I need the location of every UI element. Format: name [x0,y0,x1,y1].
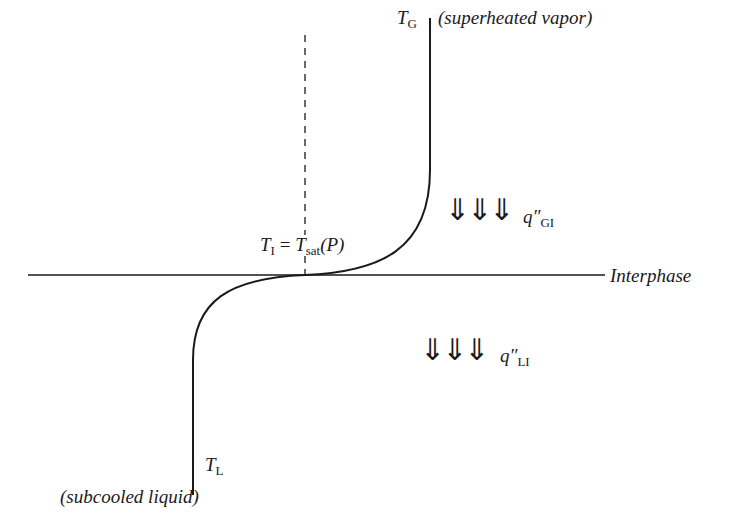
subcooled-liquid-label: (subcooled liquid) [60,487,199,506]
tg-label: TG [397,8,417,27]
liquid-heat-flux-arrows-icon: ⇓⇓⇓ [420,335,486,365]
superheated-vapor-label: (superheated vapor) [438,8,592,27]
interface-temperature-label: TI = Tsat(P) [258,235,346,254]
gas-heat-flux-arrows-icon: ⇓⇓⇓ [445,195,511,225]
tl-label: TL [205,455,224,474]
q-gi-label: q″GI [523,207,554,226]
interphase-label: Interphase [610,266,691,285]
temperature-profile-diagram [0,0,732,526]
q-li-label: q″LI [500,346,530,365]
